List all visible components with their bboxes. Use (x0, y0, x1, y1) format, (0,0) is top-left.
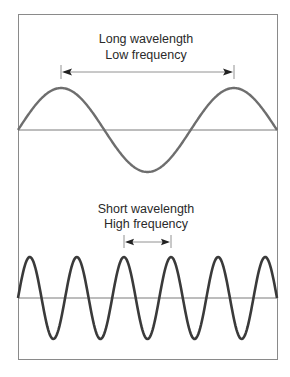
wave-diagram: Long wavelength Low frequency Short wave… (0, 0, 290, 377)
short-wavelength-arrow (124, 235, 171, 248)
long-wavelength-label: Long wavelength (99, 32, 194, 46)
diagram-frame (19, 15, 278, 360)
high-frequency-label: High frequency (104, 217, 189, 231)
long-wavelength-arrow (61, 65, 234, 79)
low-frequency-label: Low frequency (105, 48, 187, 62)
short-wavelength-label: Short wavelength (98, 202, 195, 216)
